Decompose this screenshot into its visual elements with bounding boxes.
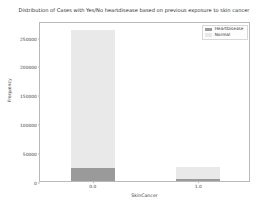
legend-swatch [205,33,212,36]
y-tick-label: 50000 [0,152,40,157]
matplotlib-figure: Distribution of Cases with Yes/No heartd… [0,0,268,204]
bar-segment-normal[interactable] [71,30,115,169]
bar-stack[interactable] [71,30,115,181]
bar-segment-heartdisease[interactable] [71,168,115,181]
y-tick-label: 250000 [0,36,40,41]
x-axis-label: SkinCancer [39,193,250,198]
y-tick-label: 0 [0,181,40,186]
bar-segment-normal[interactable] [176,167,220,179]
legend-swatch [205,28,212,31]
plot-area: 050000100000150000200000250000 0.01.0 He… [39,22,250,182]
legend-item: HeartDisease [205,27,243,31]
legend-label: Normal [215,33,231,37]
chart-title: Distribution of Cases with Yes/No heartd… [0,7,268,13]
x-tick-mark [93,181,94,183]
y-tick-label: 100000 [0,123,40,128]
bar-segment-heartdisease[interactable] [176,179,220,181]
legend-label: HeartDisease [215,27,244,31]
x-tick-mark [198,181,199,183]
x-tick-label: 0.0 [89,184,96,189]
y-tick-mark [38,183,40,184]
y-tick-label: 200000 [0,65,40,70]
legend-item: Normal [205,33,243,37]
chart-legend: HeartDiseaseNormal [202,25,247,40]
bars-layer [40,23,249,181]
y-tick-label: 150000 [0,94,40,99]
bar-stack[interactable] [176,167,220,181]
x-tick-label: 1.0 [195,184,202,189]
